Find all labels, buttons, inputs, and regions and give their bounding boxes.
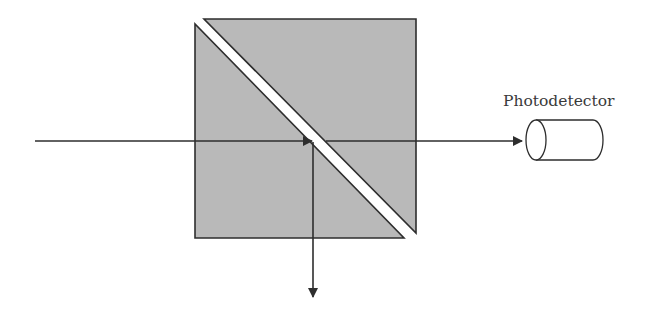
beam-splitter (195, 19, 416, 238)
beam-splitter-diagram: Photodetector (0, 0, 660, 313)
photodetector-label: Photodetector (503, 92, 615, 110)
photodetector (526, 120, 603, 160)
photodetector-face (526, 120, 546, 160)
